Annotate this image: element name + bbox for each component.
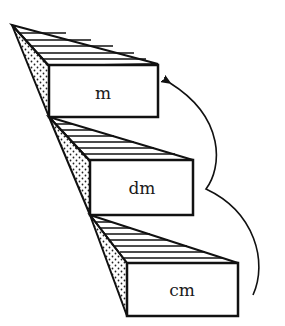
step-dm: dm	[49, 117, 193, 215]
step-m: m	[12, 25, 158, 117]
metric-units-staircase-diagram: m dm cm	[0, 0, 285, 326]
label-dm: dm	[128, 178, 155, 198]
label-cm: cm	[169, 280, 195, 300]
label-m: m	[95, 83, 111, 103]
step-cm: cm	[90, 215, 238, 316]
